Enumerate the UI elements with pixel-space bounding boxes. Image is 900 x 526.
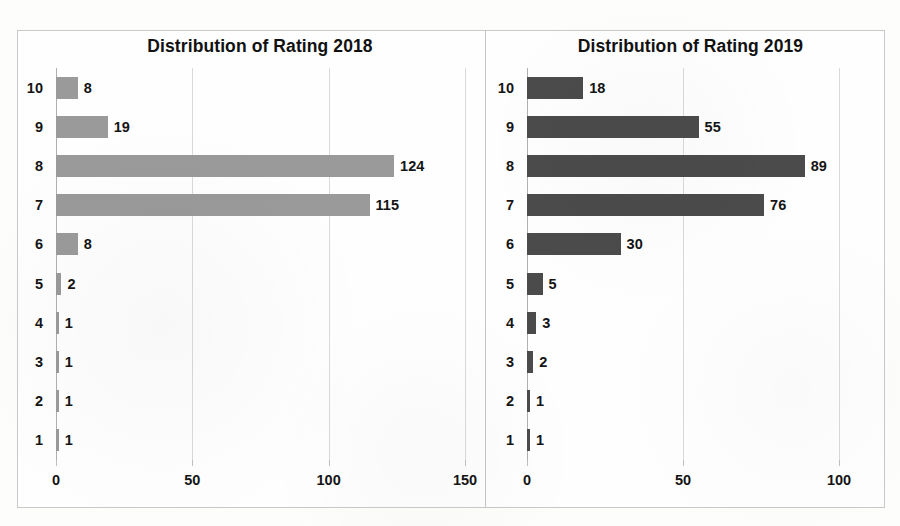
bar-row: 919 [56,107,465,146]
plot-area-2019: 050100 10189558897766305543322111 [527,68,839,460]
bar [527,273,543,295]
bar-value-label: 76 [770,197,786,213]
category-label: 9 [506,119,514,135]
bar-row: 889 [527,146,839,185]
bar-row: 7115 [56,186,465,225]
bar-value-label: 115 [376,197,399,213]
bar [527,77,583,99]
bar [527,351,533,373]
bar [527,116,699,138]
x-tick-mark [527,460,528,466]
bar [56,194,370,216]
category-label: 8 [506,158,514,174]
bar [527,429,530,451]
category-label: 3 [35,354,43,370]
x-tick-label: 100 [317,472,341,488]
category-label: 2 [506,393,514,409]
bar-value-label: 5 [549,276,557,292]
bar-value-label: 18 [589,80,605,96]
gridline-x-150 [465,68,466,460]
bar [527,194,764,216]
x-tick-label: 0 [523,472,531,488]
x-tick-mark [683,460,684,466]
bar [56,155,394,177]
x-tick-label: 100 [827,472,851,488]
x-tick-label: 50 [675,472,691,488]
x-tick-mark [56,460,57,466]
category-label: 7 [506,197,514,213]
bar-value-label: 1 [65,393,73,409]
bar-row: 41 [56,303,465,342]
chart-title-2018: Distribution of Rating 2018 [17,36,485,57]
category-label: 3 [506,354,514,370]
bar-row: 21 [56,382,465,421]
x-tick-mark [839,460,840,466]
bar-row: 21 [527,382,839,421]
bar [56,429,59,451]
bar-value-label: 1 [536,393,544,409]
chart-panel-2019: Distribution of Rating 2019 050100 10189… [486,30,885,508]
bar [527,312,536,334]
bar-row: 55 [527,264,839,303]
bar [56,351,59,373]
category-label: 7 [35,197,43,213]
category-label: 6 [35,236,43,252]
category-label: 10 [27,80,43,96]
chart-title-2019: Distribution of Rating 2019 [486,36,885,57]
x-tick-label: 0 [52,472,60,488]
bar-row: 31 [56,342,465,381]
bar-row: 630 [527,225,839,264]
bar-value-label: 1 [536,432,544,448]
category-label: 4 [506,315,514,331]
plot-area-2018: 050100150 10891981247115685241312111 [56,68,465,460]
bar-row: 8124 [56,146,465,185]
category-label: 4 [35,315,43,331]
bar [56,273,61,295]
bar [56,390,59,412]
x-tick-mark [465,460,466,466]
bar-row: 68 [56,225,465,264]
category-label: 8 [35,158,43,174]
bar-row: 52 [56,264,465,303]
x-axis-2018: 050100150 [56,460,465,490]
chart-panel-2018: Distribution of Rating 2018 050100150 10… [17,30,485,508]
category-label: 5 [506,276,514,292]
bar-value-label: 3 [542,315,550,331]
x-tick-mark [192,460,193,466]
bar-value-label: 1 [65,432,73,448]
bar [527,155,805,177]
x-tick-mark [329,460,330,466]
category-label: 6 [506,236,514,252]
category-label: 10 [498,80,514,96]
bar-value-label: 1 [65,354,73,370]
bar [56,233,78,255]
x-tick-label: 50 [184,472,200,488]
bar [56,116,108,138]
bar [527,390,530,412]
bar-row: 32 [527,342,839,381]
bar-value-label: 55 [705,119,721,135]
bar-row: 955 [527,107,839,146]
bar [56,77,78,99]
bar-value-label: 2 [539,354,547,370]
gridline-x-100 [839,68,840,460]
bar-value-label: 124 [400,158,424,174]
bar-value-label: 2 [67,276,75,292]
category-label: 2 [35,393,43,409]
bar-value-label: 19 [114,119,130,135]
bar-row: 108 [56,68,465,107]
category-label: 5 [35,276,43,292]
bar-row: 43 [527,303,839,342]
panel-divider [485,30,486,508]
x-axis-2019: 050100 [527,460,839,490]
bar-row: 1018 [527,68,839,107]
bar-value-label: 30 [627,236,643,252]
bar-value-label: 1 [65,315,73,331]
x-tick-label: 150 [453,472,477,488]
category-label: 1 [35,432,43,448]
bar-row: 11 [527,421,839,460]
bar-value-label: 8 [84,80,92,96]
bar-value-label: 8 [84,236,92,252]
category-label: 9 [35,119,43,135]
bar [56,312,59,334]
